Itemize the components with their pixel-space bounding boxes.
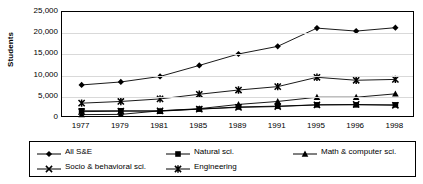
legend-label: Math & computer sci.: [318, 147, 396, 156]
legend-sample: [36, 146, 62, 158]
legend-marker-square-icon: [165, 148, 191, 160]
y-axis-tick-label: 20,000: [20, 28, 58, 36]
gridline: [62, 33, 413, 34]
legend-label: Engineering: [191, 162, 237, 171]
y-axis-tick-label: 10,000: [20, 71, 58, 79]
legend-sample: [292, 146, 318, 158]
y-axis-tick-label: 15,000: [20, 49, 58, 57]
x-axis-tick-label: 1989: [218, 122, 258, 130]
legend-item[interactable]: All S&E: [36, 144, 92, 159]
series-layer: [62, 12, 415, 118]
gridline: [62, 76, 413, 77]
legend-item[interactable]: Natural sci.: [165, 144, 234, 159]
line-chart: Students 25,00020,00015,00010,0005,0000 …: [0, 0, 423, 184]
plot-area: [61, 11, 414, 117]
y-axis-tick-label: 25,000: [20, 7, 58, 15]
y-axis-tick-label: 5,000: [20, 92, 58, 100]
legend-marker-triangle-icon: [292, 148, 318, 160]
x-axis-tick-label: 1996: [335, 122, 375, 130]
x-axis-tick-label: 1995: [296, 122, 336, 130]
x-axis-tick-label: 1985: [178, 122, 218, 130]
legend-label: All S&E: [62, 147, 92, 156]
x-axis-tick-label: 1977: [61, 122, 101, 130]
legend-sample: [36, 161, 62, 173]
y-axis-title: Students: [6, 20, 15, 80]
x-axis-tick-label: 1979: [100, 122, 140, 130]
legend-marker-diamond-icon: [36, 148, 62, 160]
gridline: [62, 54, 413, 55]
legend-label: Natural sci.: [191, 147, 234, 156]
series-math-computer-sci: [78, 90, 398, 117]
y-axis-tick-label: 0: [20, 113, 58, 121]
legend-marker-asterisk-icon: [165, 163, 191, 175]
legend-marker-x-icon: [36, 163, 62, 175]
y-axis-tick-labels: 25,00020,00015,00010,0005,0000: [18, 0, 58, 130]
legend-item[interactable]: Engineering: [165, 159, 237, 174]
legend-sample: [165, 146, 191, 158]
x-axis-tick-label: 1991: [257, 122, 297, 130]
legend-sample: [165, 161, 191, 173]
legend-item[interactable]: Math & computer sci.: [292, 144, 396, 159]
legend-label: Socio & behavioral sci.: [62, 162, 146, 171]
x-axis-tick-label: 1981: [139, 122, 179, 130]
legend-item[interactable]: Socio & behavioral sci.: [36, 159, 146, 174]
x-axis-tick-label: 1998: [374, 122, 414, 130]
chart-legend: All S&ENatural sci.Math & computer sci.S…: [29, 141, 416, 177]
gridline: [62, 97, 413, 98]
